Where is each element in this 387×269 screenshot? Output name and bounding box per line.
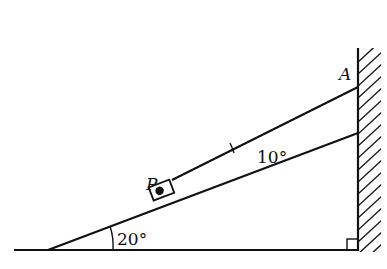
wall-hatching [358, 40, 382, 266]
incline-diagram: 20° 10° P A [0, 0, 387, 269]
label-incline-angle: 20° [117, 229, 147, 249]
incline-angle-arc [110, 226, 113, 250]
label-point-p: P [145, 174, 158, 194]
label-rope-angle: 10° [257, 147, 287, 167]
label-point-a: A [337, 64, 351, 84]
incline-line [48, 133, 358, 250]
right-angle-marker [347, 239, 358, 250]
